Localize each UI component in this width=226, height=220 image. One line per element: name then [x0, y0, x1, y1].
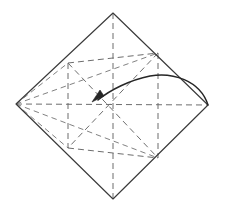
- origami-diagram-svg: Origami fold step diagram Square sheet o…: [0, 0, 226, 220]
- sheet-face: [16, 13, 208, 199]
- origami-diagram-container: Origami fold step diagram Square sheet o…: [0, 0, 226, 220]
